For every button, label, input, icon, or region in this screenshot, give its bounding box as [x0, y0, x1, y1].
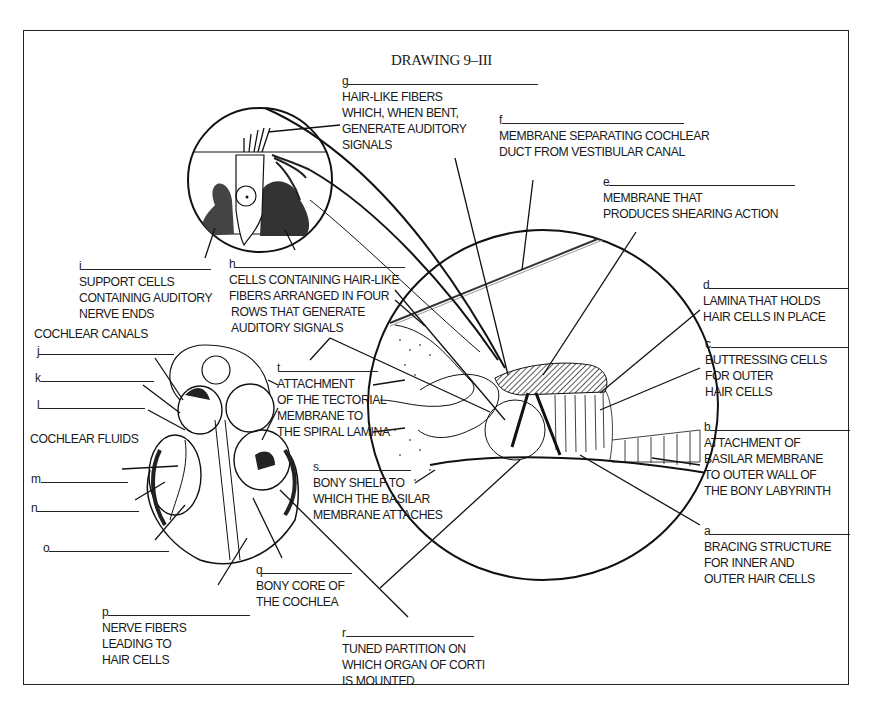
label-t: t ATTACHMENT OF THE TECTORIAL MEMBRANE T… — [277, 360, 390, 440]
label-s: s BONY SHELF TO WHICH THE BASILAR MEMBRA… — [313, 459, 443, 523]
label-b: b ATTACHMENT OF BASILAR MEMBRANE TO OUTE… — [704, 419, 850, 499]
label-r: r TUNED PARTITION ON WHICH ORGAN OF CORT… — [342, 625, 485, 689]
label-a: a BRACING STRUCTURE FOR INNER AND OUTER … — [704, 523, 850, 587]
answer-blank-a[interactable] — [710, 523, 850, 535]
label-q: q BONY CORE OF THE COCHLEA — [256, 562, 352, 610]
label-i: i SUPPORT CELLS CONTAINING AUDITORY NERV… — [79, 258, 212, 322]
label-d: d LAMINA THAT HOLDS HAIR CELLS IN PLACE — [703, 277, 849, 325]
answer-blank-c[interactable] — [711, 336, 849, 348]
label-e: e MEMBRANE THAT PRODUCES SHEARING ACTION — [603, 174, 795, 222]
cochlea-section — [147, 345, 298, 564]
answer-blank-p[interactable] — [108, 604, 250, 616]
label-p: p NERVE FIBERS LEADING TO HAIR CELLS — [102, 604, 250, 668]
answer-blank-r[interactable] — [346, 625, 474, 637]
answer-blank-b[interactable] — [710, 419, 850, 431]
label-h: h CELLS CONTAINING HAIR-LIKE FIBERS ARRA… — [229, 256, 405, 336]
hair-cell-inset — [186, 108, 335, 252]
answer-blank-j[interactable] — [39, 343, 174, 355]
label-o: o — [43, 540, 169, 556]
answer-blank-i[interactable] — [81, 258, 211, 270]
answer-blank-o[interactable] — [49, 540, 169, 552]
answer-blank-m[interactable] — [41, 471, 128, 483]
answer-blank-f[interactable] — [502, 112, 684, 124]
answer-blank-k[interactable] — [41, 370, 154, 382]
answer-blank-s[interactable] — [319, 459, 411, 471]
label-m: m — [31, 471, 128, 487]
label-j: j — [37, 343, 174, 359]
answer-blank-l[interactable] — [39, 397, 145, 409]
answer-blank-g[interactable] — [348, 73, 538, 85]
label-c: c BUTTRESSING CELLS FOR OUTER HAIR CELLS — [705, 336, 849, 400]
answer-blank-e[interactable] — [609, 174, 795, 186]
organ-of-corti-section — [368, 230, 720, 580]
answer-blank-d[interactable] — [709, 277, 849, 289]
answer-blank-q[interactable] — [262, 562, 352, 574]
heading-cochlear-fluids: COCHLEAR FLUIDS — [30, 432, 138, 446]
answer-blank-n[interactable] — [37, 500, 139, 512]
heading-cochlear-canals: COCHLEAR CANALS — [34, 327, 148, 341]
label-n: n — [31, 500, 139, 516]
label-k: k — [35, 370, 154, 386]
answer-blank-h[interactable] — [235, 256, 405, 268]
answer-blank-t[interactable] — [280, 360, 378, 372]
label-f: f MEMBRANE SEPARATING COCHLEAR DUCT FROM… — [499, 112, 709, 160]
label-l: l — [37, 397, 145, 413]
